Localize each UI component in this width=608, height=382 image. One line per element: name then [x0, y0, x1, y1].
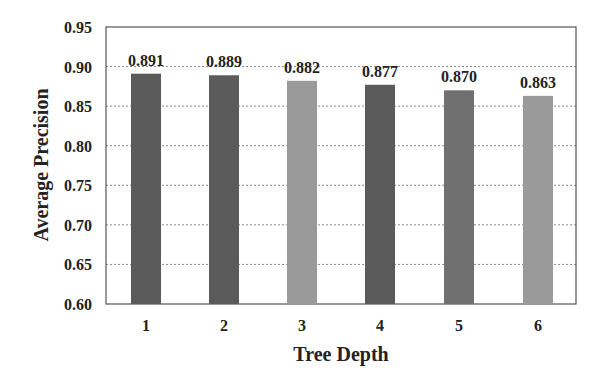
y-tick-label: 0.60 [64, 296, 92, 313]
bar-4 [365, 85, 395, 304]
bars: 0.8910.8890.8820.8770.8700.863 [128, 52, 556, 304]
x-tick-label: 3 [298, 317, 306, 334]
y-tick-label: 0.70 [64, 217, 92, 234]
x-tick-labels: 123456 [142, 317, 542, 334]
x-tick-label: 2 [220, 317, 228, 334]
y-tick-labels: 0.600.650.700.750.800.850.900.95 [64, 19, 92, 313]
data-label: 0.863 [520, 74, 556, 91]
data-label: 0.889 [206, 53, 242, 70]
y-tick-label: 0.65 [64, 256, 92, 273]
bar-2 [209, 75, 239, 304]
data-label: 0.870 [441, 68, 477, 85]
bar-5 [444, 90, 474, 304]
x-tick-label: 6 [534, 317, 542, 334]
y-axis-label: Average Precision [30, 88, 53, 241]
data-label: 0.891 [128, 52, 164, 69]
bar-6 [523, 96, 553, 304]
y-tick-label: 0.95 [64, 19, 92, 36]
x-tick-label: 1 [142, 317, 150, 334]
y-tick-label: 0.75 [64, 177, 92, 194]
data-label: 0.882 [284, 59, 320, 76]
x-tick-label: 4 [376, 317, 384, 334]
bar-chart: 0.8910.8890.8820.8770.8700.863 0.600.650… [0, 0, 608, 382]
y-tick-label: 0.80 [64, 138, 92, 155]
bar-1 [131, 74, 161, 304]
x-axis-label: Tree Depth [293, 343, 388, 366]
x-tick-label: 5 [455, 317, 463, 334]
gridlines [106, 67, 576, 265]
y-tick-label: 0.85 [64, 98, 92, 115]
plot-area [106, 27, 576, 304]
y-tick-label: 0.90 [64, 59, 92, 76]
bar-3 [287, 81, 317, 304]
data-label: 0.877 [362, 63, 398, 80]
